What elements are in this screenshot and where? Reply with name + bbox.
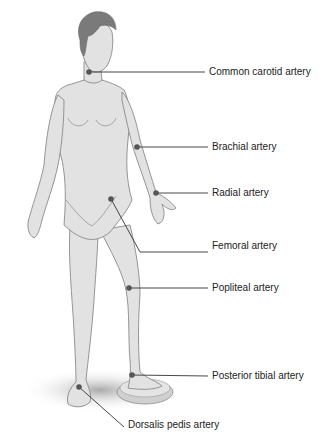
pulse-point-radial: [153, 190, 159, 196]
pulse-point-posterior_tibial: [129, 372, 135, 378]
label-common-carotid-artery: Common carotid artery: [209, 66, 311, 78]
label-popliteal-artery: Popliteal artery: [212, 282, 279, 294]
pulse-point-brachial: [134, 144, 140, 150]
pulse-point-femoral: [108, 196, 114, 202]
label-brachial-artery: Brachial artery: [212, 141, 276, 153]
pulse-points-diagram: Common carotid artery Brachial artery Ra…: [0, 0, 333, 447]
label-dorsalis-pedis-artery: Dorsalis pedis artery: [128, 419, 219, 431]
label-posterior-tibial-artery: Posterior tibial artery: [212, 370, 304, 382]
pulse-point-dorsalis_pedis: [76, 384, 82, 390]
label-radial-artery: Radial artery: [212, 187, 269, 199]
pulse-point-popliteal: [126, 285, 132, 291]
pulse-point-carotid: [86, 69, 92, 75]
label-femoral-artery: Femoral artery: [212, 240, 277, 252]
